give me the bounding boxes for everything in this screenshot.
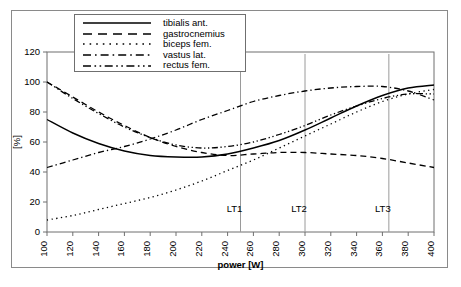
x-tick-label: 340 [348,241,359,257]
x-tick-label: 200 [167,241,178,257]
chart-legend: tibialis ant. gastrocnemius biceps fem. … [74,14,246,72]
x-tick-label: 100 [38,241,49,257]
y-tick-label: 20 [29,196,40,207]
threshold-label-lt3: LT3 [375,203,391,214]
y-tick-label: 60 [29,136,40,147]
x-tick-label: 400 [425,241,436,257]
x-tick-label: 280 [270,241,281,257]
threshold-label-lt2: LT2 [291,203,307,214]
y-tick-label: 0 [35,226,40,237]
legend-line-solid-icon [81,18,155,28]
legend-item-gastrocnemius: gastrocnemius [75,29,245,40]
x-tick-label: 260 [244,241,255,257]
y-tick-label: 120 [24,46,40,57]
x-tick-label: 360 [373,241,384,257]
legend-line-dashdot-icon [81,50,155,60]
threshold-label-lt1: LT1 [227,203,243,214]
x-tick-label: 320 [322,241,333,257]
legend-item-tibialis-ant: tibialis ant. [75,18,245,29]
x-tick-label: 160 [115,241,126,257]
legend-label-rectus-fem: rectus fem. [163,60,210,71]
legend-line-dotted-icon [81,39,155,49]
x-tick-label: 240 [219,241,230,257]
x-axis-title: power [W] [218,259,264,270]
x-tick-label: 380 [399,241,410,257]
legend-line-dashed-icon [81,29,155,39]
legend-line-dashdotdot-icon [81,61,155,71]
legend-item-rectus-fem: rectus fem. [75,60,245,71]
legend-label-tibialis-ant: tibialis ant. [163,18,208,29]
x-tick-label: 120 [64,241,75,257]
y-axis-title: [%] [11,135,22,149]
legend-item-vastus-lat: vastus lat. [75,50,245,61]
legend-item-biceps-fem: biceps fem. [75,39,245,50]
x-tick-label: 180 [141,241,152,257]
x-tick-label: 140 [90,241,101,257]
y-tick-label: 40 [29,166,40,177]
x-tick-label: 220 [193,241,204,257]
y-tick-label: 80 [29,106,40,117]
chart-figure: 020406080100120[%]1001201401601802002202… [0,0,461,287]
y-tick-label: 100 [24,76,40,87]
x-tick-label: 300 [296,241,307,257]
